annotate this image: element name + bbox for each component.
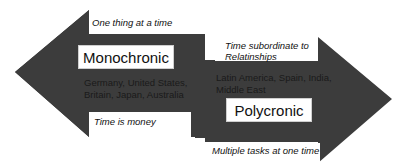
monochronic-countries-1: Germany, United States, [84, 77, 187, 89]
polycronic-label: Polycronic [226, 98, 312, 122]
right-top-caption-1: Time subordinate to [225, 40, 309, 51]
right-bottom-caption: Multiple tasks at one time [212, 145, 319, 156]
polycronic-countries-1: Latin America, Spain, India, [216, 72, 332, 84]
arrows-graphic [0, 0, 405, 167]
monochronic-label: Monochronic [78, 45, 174, 69]
right-top-caption-2: Relatinships [225, 51, 277, 62]
left-top-caption: One thing at a time [92, 17, 172, 28]
polycronic-countries-2: Middle East [216, 84, 266, 96]
monochronic-countries-2: Britain, Japan, Australia [84, 89, 184, 101]
left-bottom-caption: Time is money [94, 116, 156, 127]
